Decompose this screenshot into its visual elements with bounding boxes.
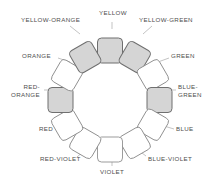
label-violet: VIOLET [100,168,124,176]
leader-line-yellow-orange [70,26,80,34]
label-yellow-green: YELLOW-GREEN [139,16,193,24]
swatch-violet[interactable] [98,137,123,162]
label-yellow-orange: YELLOW-ORANGE [21,16,80,24]
swatch-blue-green[interactable] [147,88,172,113]
leader-line-yellow-green [143,26,152,34]
label-yellow: YELLOW [99,9,127,17]
label-red-violet: RED-VIOLET [40,155,81,163]
color-wheel-diagram: YELLOW YELLOW-GREEN GREEN BLUE- GREEN BL… [0,0,218,193]
label-red: RED [39,125,53,133]
label-blue-green-line2: GREEN [178,91,212,99]
label-orange: ORANGE [22,52,51,60]
label-blue-violet: BLUE-VIOLET [148,155,192,163]
label-red-orange: RED- ORANGE [6,83,40,98]
label-blue: BLUE [176,125,194,133]
swatch-red-orange[interactable] [48,88,73,113]
label-red-orange-line2: ORANGE [6,91,40,99]
label-blue-green: BLUE- GREEN [178,83,212,98]
swatches-group [48,38,172,162]
label-green: GREEN [171,52,195,60]
label-blue-green-line1: BLUE- [178,83,212,91]
label-red-orange-line1: RED- [6,83,40,91]
